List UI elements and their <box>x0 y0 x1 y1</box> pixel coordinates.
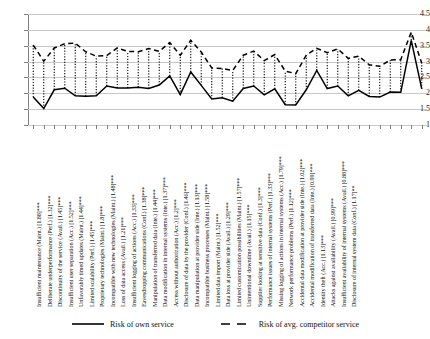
x-category-label: Supplier looking at sensitive data (Conf… <box>257 129 263 307</box>
x-category-label: Identity theft (Acc.) [1.13]*** <box>320 129 326 307</box>
x-category-label: Accidental data modification at provider… <box>299 129 305 307</box>
x-category-label: Attacks against availability (Avail.) [0… <box>330 129 336 307</box>
x-category-label: Data manipulation at provider side (Inte… <box>194 129 200 307</box>
x-category-label: Insufficient logging of actions (Acc.) [… <box>131 129 137 307</box>
series-plot <box>28 14 427 126</box>
x-category-label: Data modification in internal systems (I… <box>162 129 168 307</box>
x-category-label: Eavesdropping communications (Conf.) [1.… <box>141 129 147 307</box>
x-category-label: Limited data import (Maint.) [1.52]*** <box>215 129 221 307</box>
x-category-label: Unintentional downtime (Avail.) [1.15]**… <box>246 129 252 307</box>
own-service-line <box>33 40 422 108</box>
legend-label-competitor-service: Risk of avg. competitor service <box>259 320 359 329</box>
x-category-label: Limited scalability (Perf.) [1.45]*** <box>89 129 95 307</box>
x-axis-category-labels: Insufficient maintenance (Maint.) [1.88]… <box>28 129 427 309</box>
x-category-label: Disclosure of data by the provider (Conf… <box>183 129 189 307</box>
competitor-service-line <box>33 32 422 74</box>
x-category-label: Disclosure of internal system data (Conf… <box>351 129 357 307</box>
x-category-label: Insufficient maintenance (Maint.) [1.88]… <box>36 129 42 307</box>
x-category-label: Proprietary technologies (Maint.) [1.8]*… <box>99 129 105 307</box>
chart-legend: Risk of own service Risk of avg. competi… <box>0 316 430 332</box>
x-category-label: Accidental modification of transferred d… <box>309 129 315 307</box>
x-category-label: Incompatible business processes (Maint.)… <box>204 129 210 307</box>
x-category-label: Insufficient availability of internal sy… <box>341 129 347 307</box>
legend-label-own-service: Risk of own service <box>110 320 174 329</box>
x-category-label: Deliberate underperformance (Perf.) [1.3… <box>47 129 53 307</box>
x-category-label: Missing logging of actions in internal s… <box>278 129 284 307</box>
x-category-label: Incompatible with new technologies (Main… <box>110 129 116 307</box>
dashed-line-key-icon <box>220 320 254 328</box>
x-category-label: Network performance problems (Perf.) [1.… <box>288 129 294 307</box>
x-category-label: Limited customization possibilities (Mai… <box>236 129 242 307</box>
legend-item-own-service: Risk of own service <box>71 320 174 329</box>
risk-comparison-chart: 11.522.533.544.5 Insufficient maintenanc… <box>0 0 430 339</box>
x-category-label: Performance issues of internal systems (… <box>267 129 273 307</box>
x-category-label: Manipulation of transferred data (Inte.)… <box>152 129 158 307</box>
x-category-label: Unfavorably timed updates (Maint.) [1.44… <box>78 129 84 307</box>
x-category-label: Discontinuity of the service (Avail.) [1… <box>57 129 63 307</box>
x-category-label: Loss of data access (Avail.) [1.21]*** <box>120 129 126 307</box>
x-category-label: Access without authorization (Acc.) [1.2… <box>173 129 179 307</box>
x-category-label: Insufficient user separation (Acc.) [1.5… <box>68 129 74 307</box>
solid-line-key-icon <box>71 320 105 328</box>
legend-item-competitor-service: Risk of avg. competitor service <box>220 320 359 329</box>
x-category-label: Data loss at provider side (Avail.) [1.2… <box>225 129 231 307</box>
